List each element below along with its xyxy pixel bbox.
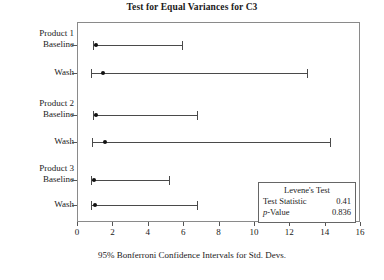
x-axis-tick-label: 16 [347, 227, 373, 237]
interval-lower-cap [91, 69, 92, 78]
annotation-title: Levene's Test [263, 185, 351, 196]
point-estimate-marker [101, 71, 105, 75]
interval-upper-cap [197, 111, 198, 120]
interval-lower-cap [91, 201, 92, 210]
interval-upper-cap [182, 41, 183, 50]
confidence-interval-line [91, 73, 307, 74]
x-axis-tick [183, 222, 184, 226]
interval-upper-cap [307, 69, 308, 78]
annotation-pvalue-value: 0.836 [332, 207, 351, 218]
chart-figure: Test for Equal Variances for C3 Product … [0, 0, 384, 280]
group-label-3: Product 3 [0, 163, 74, 173]
annotation-pvalue-row: p-Value 0.836 [263, 207, 351, 218]
interval-upper-cap [197, 201, 198, 210]
x-axis-tick-label: 8 [206, 227, 232, 237]
x-axis-tick [254, 222, 255, 226]
x-axis-tick-label: 0 [64, 227, 90, 237]
row-label: Wash [0, 67, 74, 77]
levene-test-annotation: Levene's Test Test Statistic 0.41 p-Valu… [258, 182, 356, 223]
x-axis-tick [148, 222, 149, 226]
annotation-pvalue-label: p-Value [263, 207, 289, 218]
y-axis-tick [72, 205, 77, 206]
x-axis-tick [360, 222, 361, 226]
group-label-1: Product 1 [0, 28, 74, 38]
x-axis-label: 95% Bonferroni Confidence Intervals for … [0, 250, 384, 260]
y-axis-tick [72, 45, 77, 46]
x-axis-tick-label: 2 [99, 227, 125, 237]
row-label: Baseline [0, 109, 74, 119]
annotation-statistic-value: 0.41 [336, 196, 351, 207]
confidence-interval-line [92, 142, 330, 143]
x-axis-tick-label: 6 [170, 227, 196, 237]
row-label: Baseline [0, 39, 74, 49]
y-axis-tick [72, 73, 77, 74]
annotation-statistic-label: Test Statistic [263, 196, 307, 207]
confidence-interval-line [91, 180, 169, 181]
x-axis-tick [77, 222, 78, 226]
row-label: Wash [0, 136, 74, 146]
group-label-2: Product 2 [0, 98, 74, 108]
interval-upper-cap [169, 176, 170, 185]
point-estimate-marker [93, 203, 97, 207]
x-axis-tick [219, 222, 220, 226]
x-axis-tick-label: 4 [135, 227, 161, 237]
x-axis-tick-label: 14 [312, 227, 338, 237]
x-axis-tick-label: 10 [241, 227, 267, 237]
point-estimate-marker [94, 113, 98, 117]
y-axis-tick [72, 115, 77, 116]
interval-upper-cap [330, 138, 331, 147]
confidence-interval-line [93, 45, 182, 46]
y-axis-tick [72, 180, 77, 181]
y-axis-tick [72, 142, 77, 143]
point-estimate-marker [92, 178, 96, 182]
row-label: Wash [0, 199, 74, 209]
chart-title: Test for Equal Variances for C3 [0, 2, 384, 12]
confidence-interval-line [93, 115, 197, 116]
confidence-interval-line [91, 205, 197, 206]
x-axis-tick [112, 222, 113, 226]
annotation-statistic-row: Test Statistic 0.41 [263, 196, 351, 207]
row-label: Baseline [0, 174, 74, 184]
interval-lower-cap [92, 138, 93, 147]
x-axis-tick-label: 12 [276, 227, 302, 237]
annotation-pvalue-suffix: -Value [267, 207, 289, 217]
point-estimate-marker [94, 43, 98, 47]
